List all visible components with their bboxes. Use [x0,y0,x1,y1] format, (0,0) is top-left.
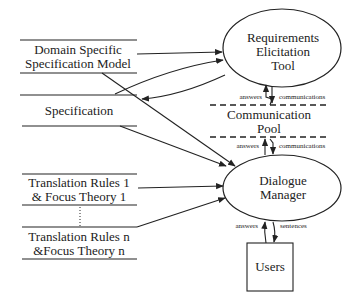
flow-users-to-dm-answers [265,222,266,243]
specification-label: Specification [45,103,114,118]
trn-line2: &Focus Theory n [33,243,125,258]
flow-spec-to-ret [115,60,223,94]
data-flow-diagram: Domain Specific Specification Model Spec… [0,0,345,308]
users-answers-label: answers [235,222,258,230]
flow-trn-to-dm [137,198,225,227]
data-store-translation-rules-1: Translation Rules 1 & Focus Theory 1 [22,174,137,205]
flow-tr1-to-dm [138,186,223,188]
tr1-line1: Translation Rules 1 [28,175,129,190]
ret-pool-communications-label: communications [279,93,326,101]
ret-pool-answers-label: answers [239,93,262,101]
flows-pool-dm: answers communications [236,139,325,155]
dm-line2: Manager [260,187,307,202]
flow-domain-to-dm [102,73,235,166]
users-sentences-label: sentences [280,222,307,230]
flow-pool-to-dm-communications [270,139,273,154]
flow-pool-to-ret-answers [266,85,272,105]
pool-line2: Pool [257,121,281,136]
trn-line1: Translation Rules n [28,229,130,244]
flow-spec-to-dm [120,126,226,166]
users-label: Users [255,259,285,274]
flows-ret-pool: answers communications [239,85,325,105]
data-store-specification: Specification [20,95,137,126]
pool-dm-communications-label: communications [279,142,326,150]
data-store-translation-rules-n: Translation Rules n &Focus Theory n [22,227,137,259]
dm-line1: Dialogue [259,173,307,188]
flow-domain-to-ret [137,52,222,54]
ret-line1: Requirements [247,30,319,45]
ret-line3: Tool [271,58,295,73]
process-dialogue-manager: Dialogue Manager [223,155,341,221]
flow-dm-to-users-sentences [273,222,275,242]
ret-line2: Elicitation [256,44,311,59]
flow-ret-to-spec [142,75,225,99]
flows-users-dm: answers sentences [235,222,307,243]
process-requirements-elicitation-tool: Requirements Elicitation Tool [223,9,341,87]
pool-line1: Communication [227,107,311,122]
pool-dm-answers-label: answers [236,142,259,150]
domain-model-line1: Domain Specific [34,42,122,57]
data-store-domain-model: Domain Specific Specification Model [20,40,137,73]
entity-users: Users [247,243,293,291]
tr1-line2: & Focus Theory 1 [32,189,127,204]
communication-pool: Communication Pool [210,105,326,137]
domain-model-line2: Specification Model [25,56,131,71]
flows-to-ret [115,52,225,99]
